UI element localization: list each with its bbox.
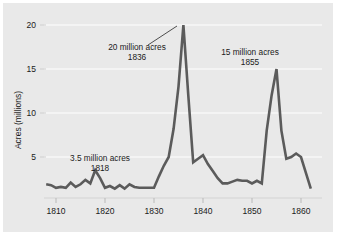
- annotation-1836-line2: 1836: [128, 52, 147, 62]
- x-tick-label-1860: 1860: [292, 206, 311, 216]
- x-tick-label-1820: 1820: [96, 206, 115, 216]
- y-axis-title: Acres (millions): [13, 91, 23, 149]
- y-tick-label-5: 5: [31, 152, 36, 162]
- y-tick-label-10: 10: [27, 108, 37, 118]
- annotation-1818-line1: 3.5 million acres: [70, 153, 130, 163]
- x-axis-ticks: [56, 198, 301, 203]
- y-tick-label-20: 20: [27, 20, 37, 30]
- annotation-1855-line1: 15 million acres: [221, 47, 279, 57]
- y-tick-label-15: 15: [27, 64, 37, 74]
- x-tick-label-1850: 1850: [243, 206, 262, 216]
- annotation-1855-line2: 1855: [241, 57, 260, 67]
- annotation-1818-line2: 1818: [91, 163, 110, 173]
- x-tick-label-1830: 1830: [145, 206, 164, 216]
- chart-figure: 20 15 10 5 Acres (millions) 1810 1820 18…: [0, 0, 343, 238]
- x-tick-label-1840: 1840: [194, 206, 213, 216]
- y-axis-ticks: [40, 25, 46, 157]
- x-tick-label-1810: 1810: [47, 206, 66, 216]
- annotation-1836-line1: 20 million acres: [108, 42, 166, 52]
- line-chart: 20 15 10 5 Acres (millions) 1810 1820 18…: [0, 0, 343, 238]
